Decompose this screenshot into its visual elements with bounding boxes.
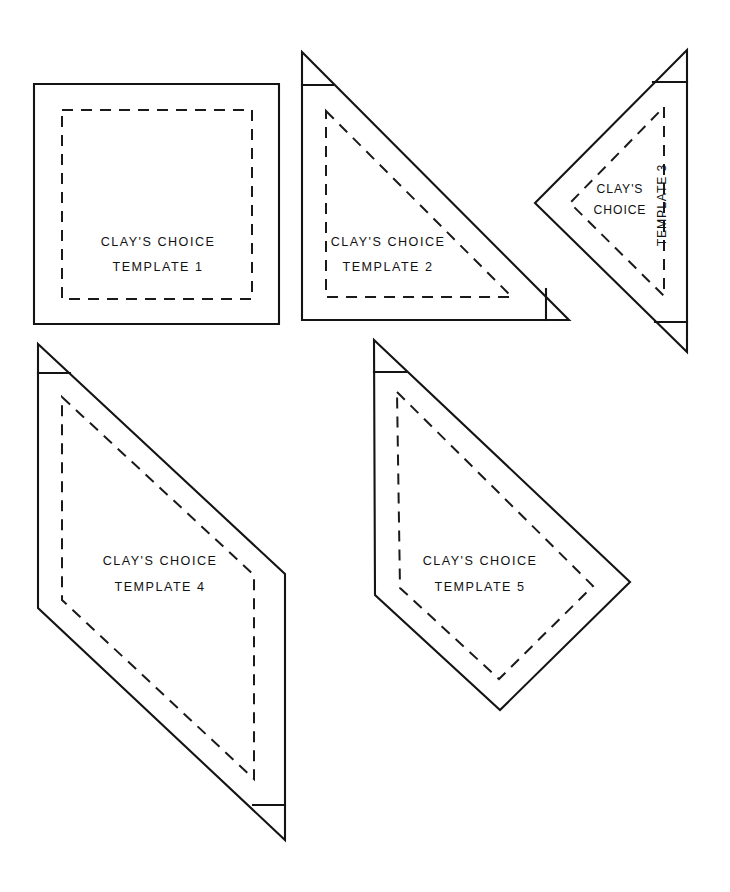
template-sheet: CLAY'S CHOICE TEMPLATE 1 CLAY'S CHOICE T… xyxy=(0,0,730,892)
template-3-brand-label-line2: CHOICE xyxy=(594,203,647,217)
template-2-number-label: TEMPLATE 2 xyxy=(342,260,433,274)
template-5-seam-line xyxy=(397,392,593,679)
template-1-brand-label: CLAY'S CHOICE xyxy=(101,235,216,249)
template-4-number-label: TEMPLATE 4 xyxy=(114,580,205,594)
template-5-brand-label: CLAY'S CHOICE xyxy=(423,554,538,568)
template-4-group[interactable]: CLAY'S CHOICE TEMPLATE 4 xyxy=(38,344,285,840)
template-3-seam-line xyxy=(570,107,664,296)
template-3-brand-label-line1: CLAY'S xyxy=(597,182,644,196)
template-1-cut-line xyxy=(34,84,279,324)
template-5-group[interactable]: CLAY'S CHOICE TEMPLATE 5 xyxy=(374,340,630,710)
template-4-brand-label: CLAY'S CHOICE xyxy=(103,554,218,568)
template-1-group[interactable]: CLAY'S CHOICE TEMPLATE 1 xyxy=(34,84,279,324)
template-3-group[interactable]: CLAY'S CHOICE TEMPLATE 3 xyxy=(535,50,687,352)
template-5-number-label: TEMPLATE 5 xyxy=(434,580,525,594)
template-1-number-label: TEMPLATE 1 xyxy=(112,260,203,274)
templates-canvas: CLAY'S CHOICE TEMPLATE 1 CLAY'S CHOICE T… xyxy=(0,0,730,892)
template-3-number-label: TEMPLATE 3 xyxy=(655,164,669,247)
template-5-cut-line xyxy=(374,340,630,710)
template-2-cut-line xyxy=(302,52,569,320)
template-2-brand-label: CLAY'S CHOICE xyxy=(331,235,446,249)
template-2-group[interactable]: CLAY'S CHOICE TEMPLATE 2 xyxy=(302,52,569,320)
